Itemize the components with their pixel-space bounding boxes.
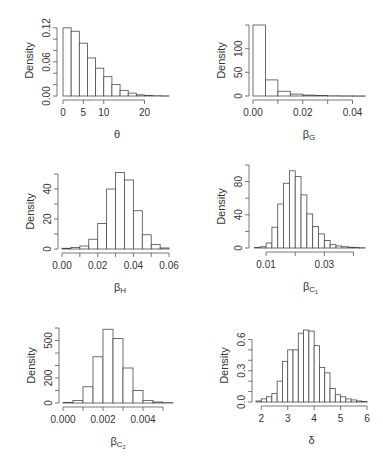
y-axis-label: Density xyxy=(23,42,35,79)
x-axis-label: βG xyxy=(303,128,316,142)
x-tick-label: 2 xyxy=(259,413,265,424)
histogram-bar xyxy=(128,93,136,96)
histogram-bar xyxy=(89,239,98,249)
x-tick-label: 3 xyxy=(285,413,291,424)
y-tick-label: 0.06 xyxy=(41,52,52,72)
y-axis: 04080Density xyxy=(215,165,249,251)
histogram-bar xyxy=(348,247,354,248)
x-tick-label: 0.04 xyxy=(343,107,363,118)
histogram-bar xyxy=(71,248,80,250)
histogram-bar xyxy=(63,28,71,96)
histogram-bar xyxy=(277,381,282,402)
y-axis: 0.000.060.12Density xyxy=(23,18,57,106)
y-axis-label: Density xyxy=(215,188,227,225)
histogram-bar xyxy=(265,80,277,96)
y-tick-label: 500 xyxy=(43,332,54,349)
y-tick-label: 20 xyxy=(42,213,53,225)
y-tick-label: 0 xyxy=(233,245,244,251)
histogram-bar xyxy=(93,357,103,403)
panel-beta-g: 050100Density0.000.020.04βG xyxy=(215,25,365,142)
histogram-bar xyxy=(113,339,123,403)
y-axis-label: Density xyxy=(218,347,230,384)
x-tick-label: 0.000 xyxy=(50,414,75,425)
histogram-bar xyxy=(96,68,104,96)
x-tick-label: 6 xyxy=(364,413,370,424)
histogram-bar xyxy=(295,177,301,248)
histogram-bar xyxy=(304,330,309,402)
histogram-bar xyxy=(289,171,295,248)
histogram-bars xyxy=(63,28,169,96)
x-tick-label: 0.002 xyxy=(90,414,115,425)
histogram-bar xyxy=(307,214,313,248)
panel-delta: 0.00.30.6Density23456δ xyxy=(218,330,370,446)
histogram-bar xyxy=(282,361,287,402)
y-tick-label: 0.6 xyxy=(236,332,247,346)
x-axis-label: θ xyxy=(114,128,120,140)
x-tick-label: 0.02 xyxy=(293,107,313,118)
x-tick-label: 0.00 xyxy=(243,107,263,118)
x-tick-label: 0.04 xyxy=(124,260,144,271)
y-tick-label: 40 xyxy=(42,183,53,195)
histogram-bar xyxy=(253,25,265,96)
x-axis: 0.010.03βC1 xyxy=(256,252,353,295)
x-tick-label: 0.00 xyxy=(52,260,72,271)
histogram-bar xyxy=(143,401,153,404)
histogram-bar xyxy=(309,331,314,402)
y-tick-label: 80 xyxy=(233,176,244,188)
histogram-bar xyxy=(267,397,272,402)
histogram-bar xyxy=(325,373,330,402)
y-axis-label: Density xyxy=(24,193,36,230)
y-tick-label: 50 xyxy=(233,66,244,78)
histogram-bar xyxy=(303,95,315,96)
histogram-bar xyxy=(63,402,73,403)
histogram-bar xyxy=(319,368,324,402)
x-axis: 051020θ xyxy=(60,100,150,140)
y-tick-label: 0 xyxy=(42,246,53,252)
x-axis: 0.000.020.040.06βH xyxy=(52,253,179,295)
histogram-bar xyxy=(133,211,142,249)
histogram-bar xyxy=(133,391,143,404)
panel-beta-c1: 04080Density0.010.03βC1 xyxy=(215,165,365,295)
x-axis-label: βC2 xyxy=(110,435,125,450)
histogram-bar xyxy=(288,350,293,402)
y-axis: 0200500Density xyxy=(25,328,59,406)
x-tick-label: 20 xyxy=(139,107,151,118)
y-tick-label: 0.00 xyxy=(41,86,52,106)
histogram-bar xyxy=(330,388,335,402)
histogram-bar xyxy=(112,85,120,96)
histogram-bar xyxy=(356,401,361,402)
y-tick-label: 100 xyxy=(233,40,244,57)
y-tick-label: 0 xyxy=(233,93,244,99)
histogram-bar xyxy=(346,399,351,402)
histogram-bar xyxy=(80,246,89,249)
histogram-bar xyxy=(335,395,340,402)
histogram-bars xyxy=(62,173,169,250)
histogram-bar xyxy=(341,397,346,402)
x-tick-label: 5 xyxy=(338,413,344,424)
x-tick-label: 4 xyxy=(311,413,317,424)
x-axis: 23456δ xyxy=(259,406,371,446)
histogram-bar xyxy=(79,43,87,96)
histogram-bars xyxy=(256,330,367,402)
histogram-bar xyxy=(278,91,290,96)
histogram-bar xyxy=(124,180,133,249)
histogram-bar xyxy=(324,241,330,248)
y-axis: 02040Density xyxy=(24,174,58,252)
histogram-bar xyxy=(116,173,125,250)
y-tick-label: 40 xyxy=(233,209,244,221)
histogram-bar xyxy=(293,350,298,402)
histogram-bar xyxy=(62,248,71,249)
histogram-bar xyxy=(261,399,266,402)
y-tick-label: 200 xyxy=(43,369,54,386)
x-axis-label: βC1 xyxy=(303,280,318,295)
histogram-bar xyxy=(362,401,367,402)
histogram-bar xyxy=(351,400,356,402)
histogram-bar xyxy=(342,247,348,248)
histogram-bar xyxy=(272,394,277,402)
y-axis: 0.00.30.6Density xyxy=(218,332,252,409)
histogram-bar xyxy=(98,224,107,250)
y-axis-label: Density xyxy=(215,42,227,79)
histogram-bars xyxy=(253,25,365,96)
histogram-bar xyxy=(301,195,307,248)
x-tick-label: 0 xyxy=(60,107,66,118)
